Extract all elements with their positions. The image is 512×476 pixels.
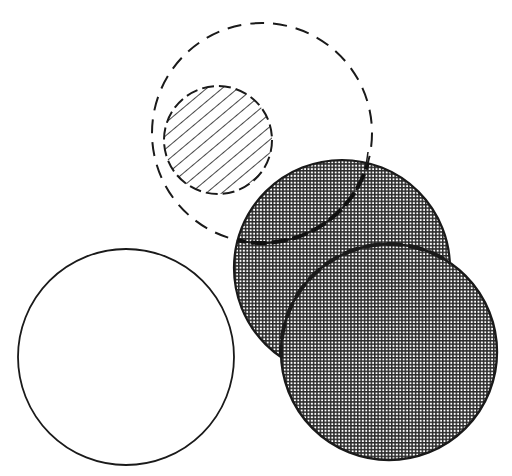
white-circle — [18, 249, 234, 465]
shaded-circle-lower — [281, 244, 497, 460]
circles-diagram — [0, 0, 512, 476]
hatched-circle — [164, 86, 272, 194]
diagram-canvas: Line diagram of five overlapping circles… — [0, 0, 512, 476]
